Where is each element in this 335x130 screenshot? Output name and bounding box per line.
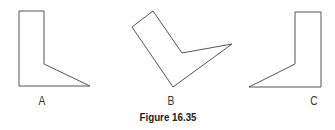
shape-a-l-polygon [19, 11, 90, 86]
figure-caption: Figure 16.35 [139, 111, 196, 123]
shape-c-mirrored-l-polygon [249, 12, 321, 87]
shape-c-label: C [310, 94, 317, 108]
shape-a-label: A [39, 94, 46, 108]
shape-b-rotated-l-polygon [132, 11, 232, 87]
shape-b-label: B [168, 94, 175, 108]
